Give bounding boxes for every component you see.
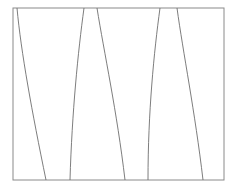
figure-background — [0, 0, 237, 188]
line-figure — [0, 0, 237, 188]
